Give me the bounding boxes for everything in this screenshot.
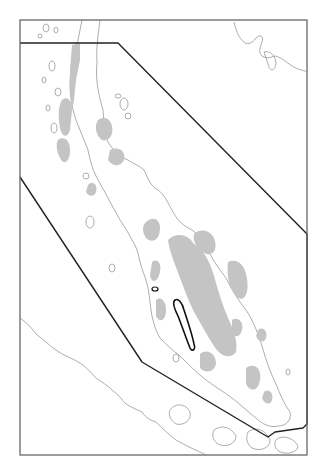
- sumatra-coastline: [20, 318, 206, 455]
- elongated-ridge-outline: [174, 299, 195, 350]
- east-coast-fragment: [234, 22, 307, 72]
- marked-patch: [152, 287, 158, 291]
- map-canvas: [0, 0, 325, 474]
- peninsula-coastline: [70, 20, 290, 427]
- map-frame: [20, 20, 307, 455]
